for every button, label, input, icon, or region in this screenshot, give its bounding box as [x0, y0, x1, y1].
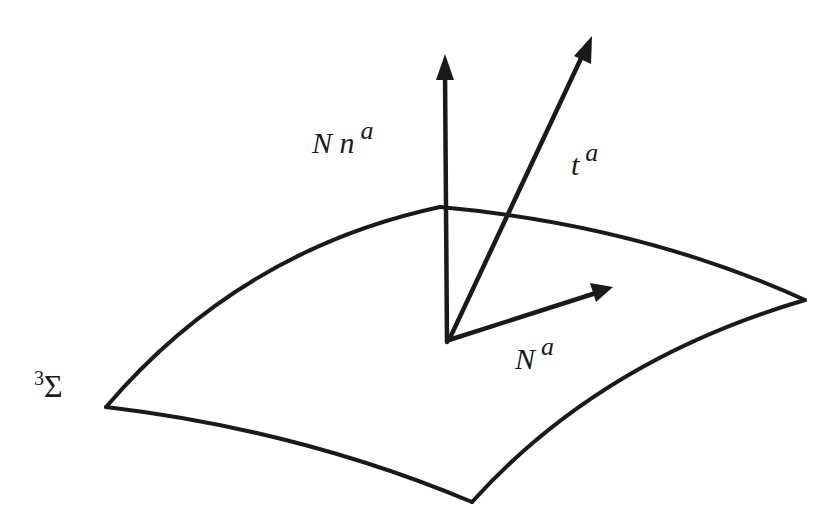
arrowhead-shift-icon: [590, 283, 613, 302]
vector-normal-arrow-icon: [445, 72, 447, 342]
label-time-vector: ta: [571, 150, 598, 180]
surface-edge-top-right: [440, 207, 805, 300]
arrowhead-normal-icon: [436, 54, 454, 80]
label-shift-vector-index: a: [541, 332, 554, 361]
label-shift-vector-main: N: [515, 342, 535, 375]
label-shift-vector: Na: [515, 344, 554, 374]
surface-edge-bottom-right: [472, 300, 805, 502]
hypersurface: [106, 207, 805, 502]
surface-edge-top-left: [106, 207, 440, 407]
label-time-vector-index: a: [585, 138, 598, 167]
label-hypersurface-symbol: Σ: [44, 368, 63, 404]
label-shift-normal: N na: [312, 128, 374, 158]
vector-shift-arrow-icon: [449, 293, 596, 340]
label-hypersurface: 3Σ: [34, 370, 63, 402]
label-time-vector-main: t: [571, 148, 579, 181]
vectors: [436, 36, 613, 342]
arrowhead-time-icon: [574, 36, 592, 64]
label-shift-normal-index: a: [361, 116, 374, 145]
diagram-canvas: [0, 0, 840, 530]
surface-edge-bottom-left: [106, 407, 472, 502]
label-shift-normal-main: N n: [312, 126, 355, 159]
label-hypersurface-dimension: 3: [34, 367, 44, 389]
vector-time-arrow-icon: [449, 52, 584, 340]
